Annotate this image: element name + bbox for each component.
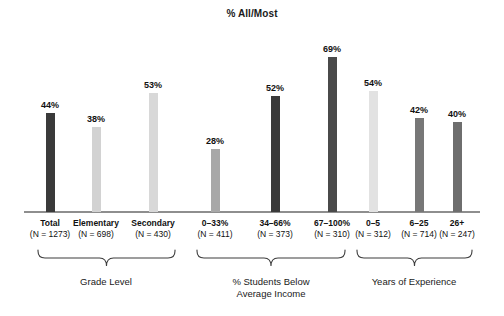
x-tick-category: 0–33% [202, 218, 228, 228]
bar [328, 57, 337, 212]
bar [46, 113, 55, 212]
group-label: % Students BelowAverage Income [211, 276, 331, 301]
x-tick-label: Elementary(N = 698) [73, 218, 119, 241]
x-tick-category: 26+ [450, 218, 464, 228]
group-brace [38, 250, 175, 266]
x-tick-sample-size: (N = 430) [131, 229, 174, 240]
bar-value-label: 28% [206, 136, 224, 146]
bar-value-label: 38% [87, 114, 105, 124]
bar-value-label: 53% [144, 80, 162, 90]
x-tick-label: 26+(N = 247) [439, 218, 475, 241]
group-brace [197, 250, 345, 266]
group-label: Years of Experience [372, 276, 457, 288]
bar [149, 93, 158, 212]
x-tick-category: Elementary [73, 218, 119, 228]
bar [369, 91, 378, 212]
bar-value-label: 42% [410, 105, 428, 115]
x-tick-label: 34–66%(N = 373) [257, 218, 293, 241]
group-brace [357, 250, 472, 266]
x-tick-category: Secondary [131, 218, 174, 228]
x-tick-sample-size: (N = 714) [401, 229, 437, 240]
bar [92, 127, 101, 212]
bar [453, 122, 462, 212]
bar-value-label: 52% [266, 83, 284, 93]
bar-value-label: 54% [364, 78, 382, 88]
bar-value-label: 69% [323, 44, 341, 54]
x-tick-label: 0–33%(N = 411) [197, 218, 232, 241]
x-tick-sample-size: (N = 411) [197, 229, 232, 240]
x-tick-category: 67–100% [314, 218, 350, 228]
x-tick-sample-size: (N = 247) [439, 229, 475, 240]
group-label-line: Average Income [211, 288, 331, 300]
x-tick-label: Secondary(N = 430) [131, 218, 174, 241]
x-tick-sample-size: (N = 698) [73, 229, 119, 240]
bar [415, 118, 424, 212]
bar [271, 96, 280, 212]
bar-value-label: 44% [41, 100, 59, 110]
x-tick-sample-size: (N = 373) [257, 229, 293, 240]
x-tick-label: 67–100%(N = 310) [314, 218, 350, 241]
bar-value-label: 40% [448, 109, 466, 119]
x-tick-category: Total [40, 218, 60, 228]
chart-container: % All/Most 44%38%53%28%52%69%54%42%40% T… [0, 0, 504, 316]
x-tick-label: 6–25(N = 714) [401, 218, 437, 241]
x-tick-sample-size: (N = 312) [355, 229, 391, 240]
x-tick-label: Total(N = 1273) [30, 218, 70, 241]
bar [211, 149, 220, 212]
group-label: Grade Level [80, 276, 132, 288]
x-tick-sample-size: (N = 1273) [30, 229, 70, 240]
x-tick-label: 0–5(N = 312) [355, 218, 391, 241]
x-tick-category: 0–5 [366, 218, 380, 228]
group-label-line: % Students Below [211, 276, 331, 288]
x-tick-sample-size: (N = 310) [314, 229, 350, 240]
x-tick-category: 6–25 [410, 218, 429, 228]
plot-area: 44%38%53%28%52%69%54%42%40% Total(N = 12… [0, 0, 504, 316]
group-braces [0, 0, 504, 316]
x-tick-category: 34–66% [259, 218, 290, 228]
